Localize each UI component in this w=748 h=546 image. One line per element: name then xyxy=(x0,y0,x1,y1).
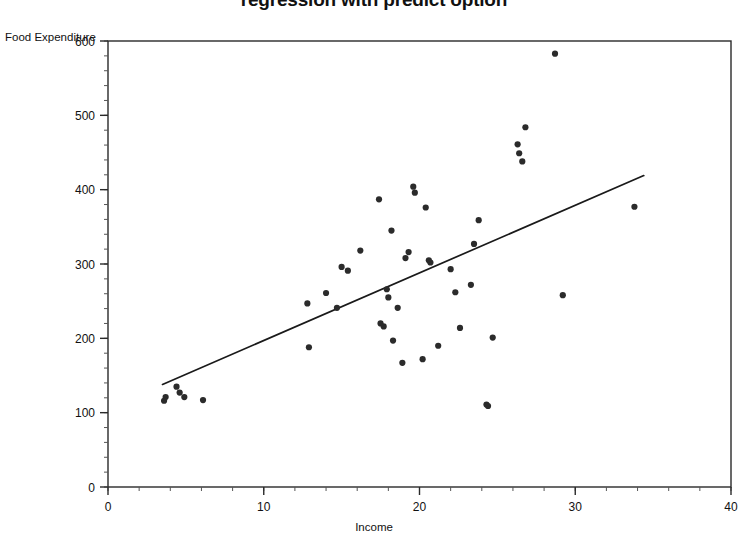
x-tick-label: 40 xyxy=(724,500,738,514)
y-tick-label: 0 xyxy=(88,481,95,495)
regression-line xyxy=(163,176,644,385)
plot-border xyxy=(108,41,731,487)
data-point xyxy=(522,124,528,130)
data-point xyxy=(334,305,340,311)
x-tick-label: 20 xyxy=(413,500,427,514)
data-point xyxy=(435,343,441,349)
data-point xyxy=(631,204,637,210)
y-axis-ticks: 0100200300400500600 xyxy=(75,35,108,495)
data-point xyxy=(381,323,387,329)
x-tick-label: 0 xyxy=(105,500,112,514)
data-point xyxy=(515,141,521,147)
data-point xyxy=(163,394,169,400)
data-point xyxy=(200,397,206,403)
data-point xyxy=(177,389,183,395)
data-point xyxy=(560,292,566,298)
data-point xyxy=(385,294,391,300)
y-tick-label: 600 xyxy=(75,35,95,49)
data-point xyxy=(405,249,411,255)
data-point xyxy=(519,158,525,164)
data-point xyxy=(388,227,394,233)
data-point xyxy=(173,384,179,390)
data-point xyxy=(427,259,433,265)
data-point xyxy=(323,290,329,296)
data-point xyxy=(402,255,408,261)
data-points xyxy=(161,51,638,410)
x-tick-label: 10 xyxy=(257,500,271,514)
data-point xyxy=(345,268,351,274)
plot-frame xyxy=(108,41,731,487)
x-axis-ticks: 010203040 xyxy=(105,487,738,514)
x-tick-label: 30 xyxy=(569,500,583,514)
fit-line xyxy=(163,176,644,385)
data-point xyxy=(390,337,396,343)
data-point xyxy=(552,51,558,57)
data-point xyxy=(304,300,310,306)
data-point xyxy=(516,150,522,156)
y-tick-label: 500 xyxy=(75,109,95,123)
data-point xyxy=(490,334,496,340)
data-point xyxy=(395,305,401,311)
data-point xyxy=(471,241,477,247)
data-point xyxy=(448,266,454,272)
scatter-plot: 010203040 0100200300400500600 xyxy=(0,0,748,546)
data-point xyxy=(468,282,474,288)
y-tick-label: 100 xyxy=(75,406,95,420)
data-point xyxy=(412,190,418,196)
data-point xyxy=(457,325,463,331)
data-point xyxy=(485,403,491,409)
data-point xyxy=(410,184,416,190)
data-point xyxy=(399,360,405,366)
data-point xyxy=(306,344,312,350)
data-point xyxy=(476,217,482,223)
data-point xyxy=(339,264,345,270)
chart-page: regression with predict option Food Expe… xyxy=(0,0,748,546)
data-point xyxy=(376,196,382,202)
data-point xyxy=(384,286,390,292)
data-point xyxy=(452,289,458,295)
data-point xyxy=(357,248,363,254)
y-tick-label: 200 xyxy=(75,332,95,346)
data-point xyxy=(420,356,426,362)
data-point xyxy=(423,204,429,210)
y-tick-label: 300 xyxy=(75,258,95,272)
data-point xyxy=(181,394,187,400)
y-tick-label: 400 xyxy=(75,183,95,197)
